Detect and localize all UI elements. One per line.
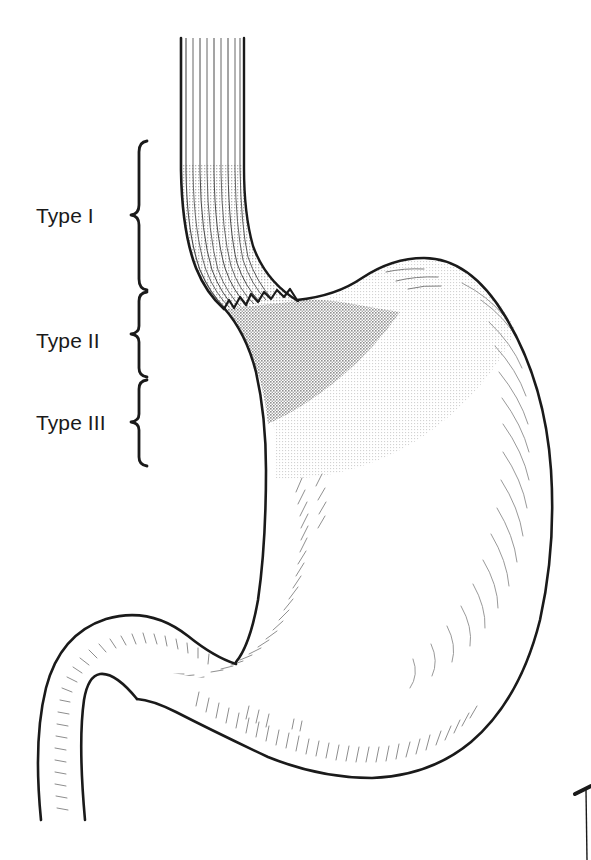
figure-root: Type I Type II Type III <box>0 0 591 860</box>
brace-group <box>131 141 147 466</box>
esophagus <box>175 38 305 320</box>
corner-crop-mark <box>575 786 591 860</box>
duodenum <box>38 615 236 820</box>
brace-type-1 <box>131 141 147 290</box>
antrum-hatching <box>196 692 477 762</box>
brace-type-3 <box>131 380 147 466</box>
label-type-2: Type II <box>36 329 100 352</box>
label-type-1: Type I <box>36 204 94 227</box>
stomach-illustration: Type I Type II Type III <box>0 0 591 860</box>
label-type-3: Type III <box>36 411 106 434</box>
duodenum-hatching <box>55 633 223 810</box>
lesser-curvature-hatching <box>211 474 326 672</box>
brace-type-2 <box>131 292 147 377</box>
